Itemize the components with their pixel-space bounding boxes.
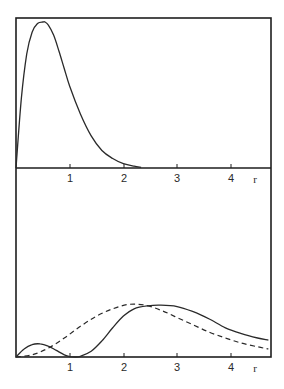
bottom-x-axis: 1 2 3 4 r xyxy=(67,353,257,374)
top-tick-label-4: 4 xyxy=(228,172,234,184)
bottom-axis-var-label: r xyxy=(253,362,257,374)
bottom-tick-label-2: 2 xyxy=(121,361,127,373)
top-x-axis: 1 2 3 4 r xyxy=(16,164,271,185)
top-tick-label-3: 3 xyxy=(174,172,180,184)
radial-distribution-figure: 1 2 3 4 r 1 2 3 4 r xyxy=(0,0,284,389)
bottom-tick-label-4: 4 xyxy=(228,361,234,373)
bottom-solid-curve xyxy=(16,305,268,357)
top-axis-var-label: r xyxy=(253,173,257,185)
top-solid-curve xyxy=(16,22,141,168)
bottom-tick-label-3: 3 xyxy=(174,361,180,373)
bottom-tick-label-1: 1 xyxy=(67,361,73,373)
top-tick-label-1: 1 xyxy=(67,172,73,184)
top-tick-label-2: 2 xyxy=(121,172,127,184)
